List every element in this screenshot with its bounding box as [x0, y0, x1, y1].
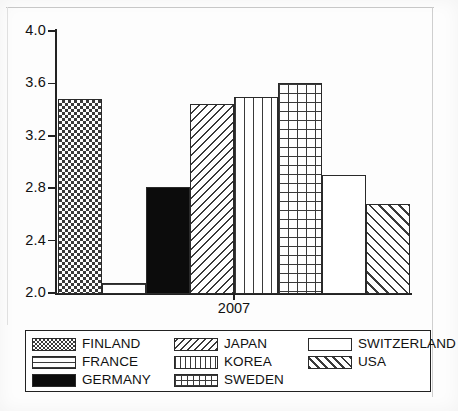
legend-swatch-icon: [174, 374, 218, 387]
y-axis-tick-label: 4.0: [8, 22, 46, 38]
scanned-page: 4.03.63.22.82.42.0 2007 FINLANDJAPANSWIT…: [0, 0, 458, 411]
y-axis-tick: [48, 292, 56, 294]
legend-item-switzerland[interactable]: SWITZERLAND: [308, 335, 426, 353]
bar-france: [102, 283, 146, 294]
y-axis-tick: [48, 135, 56, 137]
legend-item-label: GERMANY: [82, 373, 151, 387]
y-axis-tick: [48, 30, 56, 32]
bar-japan: [190, 104, 234, 294]
legend-swatch-icon: [174, 338, 218, 351]
legend-item-label: SWITZERLAND: [358, 337, 456, 351]
y-axis-tick-label: 2.8: [8, 179, 46, 195]
legend-item-france[interactable]: FRANCE: [32, 353, 174, 371]
bar-korea: [234, 97, 278, 295]
bar-chart-plot-area: 4.03.63.22.82.42.0 2007: [0, 0, 458, 320]
bar-switzerland: [322, 175, 366, 294]
bar-finland: [58, 99, 102, 294]
y-axis-tick: [48, 83, 56, 85]
legend-swatch-icon: [308, 338, 352, 351]
y-axis-line: [55, 29, 57, 295]
legend-swatch-icon: [32, 374, 76, 387]
y-axis-tick-label: 2.4: [8, 232, 46, 248]
legend-item-germany[interactable]: GERMANY: [32, 371, 174, 389]
legend-swatch-icon: [174, 356, 218, 369]
bar-germany: [146, 187, 190, 294]
bar-sweden: [278, 83, 322, 294]
y-axis-tick-label: 2.0: [8, 284, 46, 300]
legend-item-label: FINLAND: [82, 337, 140, 351]
legend-swatch-icon: [32, 338, 76, 351]
y-axis-tick-label: 3.2: [8, 127, 46, 143]
y-axis-tick: [48, 240, 56, 242]
legend-item-label: FRANCE: [82, 355, 138, 369]
legend-item-japan[interactable]: JAPAN: [174, 335, 308, 353]
bar-usa: [366, 204, 410, 294]
legend-item-label: JAPAN: [224, 337, 267, 351]
legend-swatch-icon: [308, 356, 352, 369]
y-axis-tick-label: 3.6: [8, 74, 46, 90]
legend-item-korea[interactable]: KOREA: [174, 353, 308, 371]
legend-item-label: USA: [358, 355, 386, 369]
x-axis-tick-label: 2007: [194, 300, 274, 316]
chart-legend: FINLANDJAPANSWITZERLANDFRANCEKOREAUSAGER…: [25, 330, 431, 392]
legend-item-sweden[interactable]: SWEDEN: [174, 371, 308, 389]
legend-item-usa[interactable]: USA: [308, 353, 426, 371]
y-axis-tick: [48, 187, 56, 189]
legend-item-finland[interactable]: FINLAND: [32, 335, 174, 353]
x-axis-tick: [233, 293, 235, 300]
legend-swatch-icon: [32, 356, 76, 369]
legend-item-label: SWEDEN: [224, 373, 284, 387]
legend-item-label: KOREA: [224, 355, 272, 369]
legend-grid: FINLANDJAPANSWITZERLANDFRANCEKOREAUSAGER…: [32, 335, 426, 389]
